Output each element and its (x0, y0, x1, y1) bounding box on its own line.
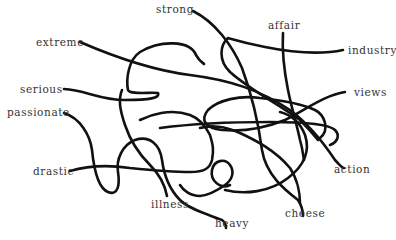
tangled-lines-diagram: strong affair extreme industry serious v… (0, 0, 396, 240)
word-drastic: drastic (33, 166, 74, 177)
word-views: views (354, 87, 387, 98)
word-illness: illness (151, 199, 189, 210)
word-affair: affair (268, 20, 300, 31)
word-strong: strong (156, 4, 194, 15)
word-action: action (334, 164, 370, 175)
word-cheese: cheese (285, 208, 325, 219)
word-industry: industry (348, 45, 396, 56)
line-serious (64, 43, 204, 100)
word-extreme: extreme (36, 37, 84, 48)
line-bottom-arc (225, 112, 307, 192)
word-serious: serious (20, 84, 63, 95)
word-heavy: heavy (215, 218, 249, 229)
line-illness (120, 90, 167, 196)
line-views (204, 92, 345, 138)
word-passionate: passionate (7, 107, 70, 118)
